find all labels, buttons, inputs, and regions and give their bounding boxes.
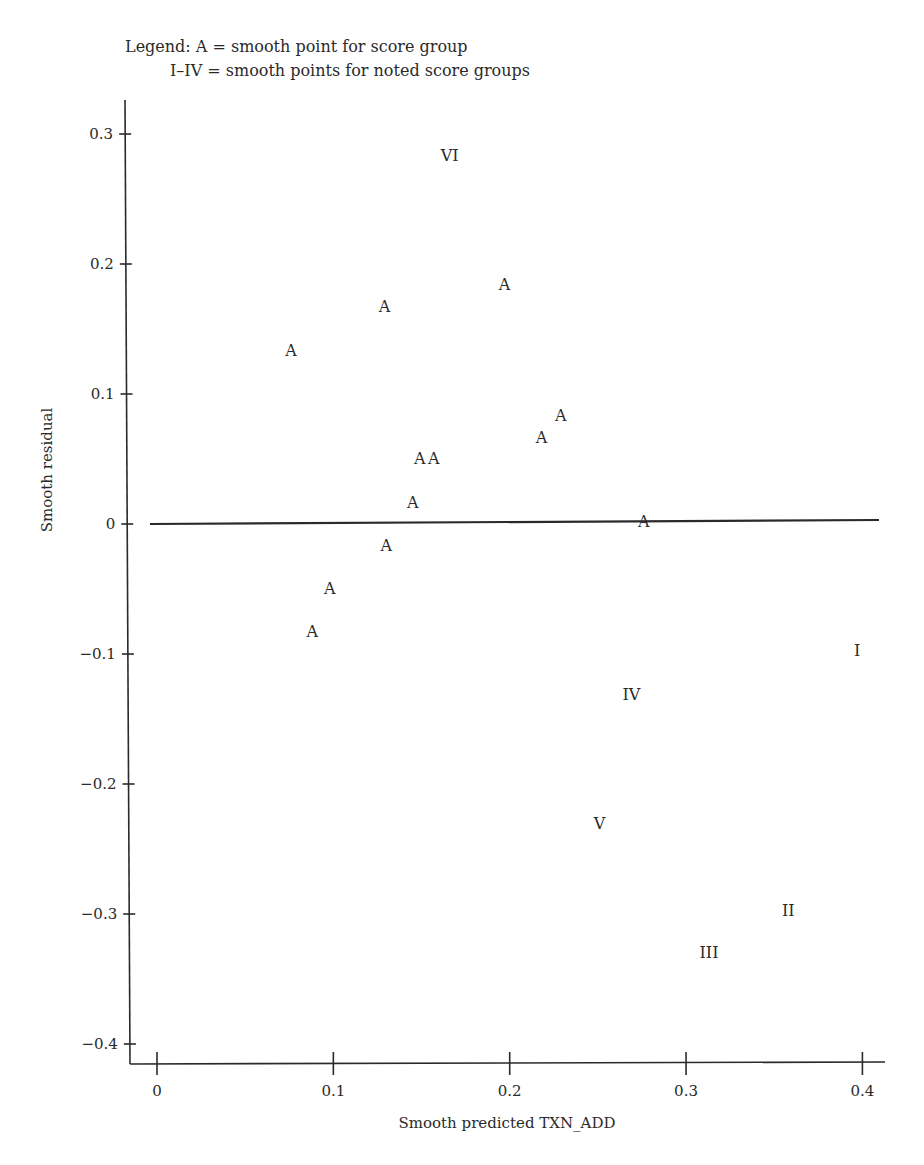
y-axis — [125, 100, 130, 1064]
y-axis-title: Smooth residual — [38, 408, 56, 533]
data-point-VI: VI — [440, 146, 459, 165]
data-point-A: A — [406, 493, 419, 512]
y-tick-label: 0.1 — [91, 385, 115, 403]
data-point-A: A — [323, 579, 336, 598]
x-tick-label: 0 — [152, 1082, 162, 1100]
data-point-A: A — [554, 406, 567, 425]
data-point-A: A — [378, 297, 391, 316]
y-tick-label: −0.4 — [81, 1035, 117, 1053]
x-tick-label: 0.4 — [850, 1082, 874, 1100]
zero-reference-line — [150, 520, 879, 524]
legend-line-2: I–IV = smooth points for noted score gro… — [170, 61, 530, 80]
data-point-A: A — [637, 512, 650, 531]
data-point-A: A — [535, 428, 548, 447]
x-tick-label: 0.3 — [674, 1082, 698, 1100]
x-tick-label: 0.1 — [321, 1082, 345, 1100]
data-point-I: I — [854, 641, 860, 660]
data-point-A: A — [305, 622, 318, 641]
data-point-IV: IV — [622, 685, 640, 704]
data-point-A: A — [498, 275, 511, 294]
x-axis-title: Smooth predicted TXN_ADD — [399, 1114, 616, 1132]
data-point-III: III — [699, 943, 718, 962]
data-points: AAAAAAAAAAAAIIIIIIIVVVI — [284, 146, 860, 962]
y-tick-label: 0.2 — [90, 255, 114, 273]
y-tick-label: −0.2 — [80, 775, 116, 793]
data-point-A: A — [379, 536, 392, 555]
x-ticks: 00.10.20.30.4 — [152, 1052, 874, 1100]
data-point-V: V — [593, 814, 606, 833]
y-tick-label: −0.3 — [81, 905, 117, 923]
scatter-chart: Legend: A = smooth point for score group… — [0, 0, 924, 1165]
legend-line-1: Legend: A = smooth point for score group — [125, 37, 468, 56]
data-point-A: A — [427, 449, 440, 468]
data-point-A: A — [413, 449, 426, 468]
data-point-A: A — [284, 341, 297, 360]
x-axis — [130, 1062, 885, 1064]
data-point-II: II — [782, 901, 795, 920]
x-tick-label: 0.2 — [498, 1082, 522, 1100]
y-tick-label: 0.3 — [89, 125, 113, 143]
y-tick-label: 0 — [106, 515, 116, 533]
y-tick-label: −0.1 — [79, 645, 115, 663]
